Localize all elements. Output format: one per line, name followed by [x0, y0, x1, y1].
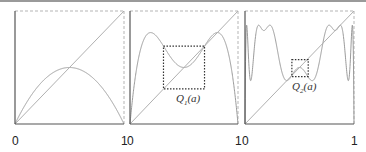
panel-1: 01 — [12, 11, 128, 148]
panel-2: Q1(a)01 — [127, 11, 242, 148]
x-tick-label-min: 0 — [12, 134, 19, 148]
x-tick-label-min: 0 — [242, 134, 249, 148]
map-curve-iterate-1 — [15, 68, 124, 125]
x-tick-label-min: 0 — [127, 134, 134, 148]
annotation-label: Q2(a) — [292, 80, 317, 95]
map-curve-iterate-4 — [245, 25, 354, 124]
map-curve-iterate-2 — [130, 33, 238, 124]
period-doubling-figure: 01Q1(a)01Q2(a)01 — [0, 0, 366, 152]
diagonal-line — [130, 11, 238, 124]
x-tick-label-max: 1 — [235, 134, 242, 148]
x-tick-label-max: 1 — [351, 134, 358, 148]
diagonal-line — [15, 11, 124, 124]
panel-3: Q2(a)01 — [242, 11, 358, 148]
annotation-label: Q1(a) — [176, 92, 201, 107]
